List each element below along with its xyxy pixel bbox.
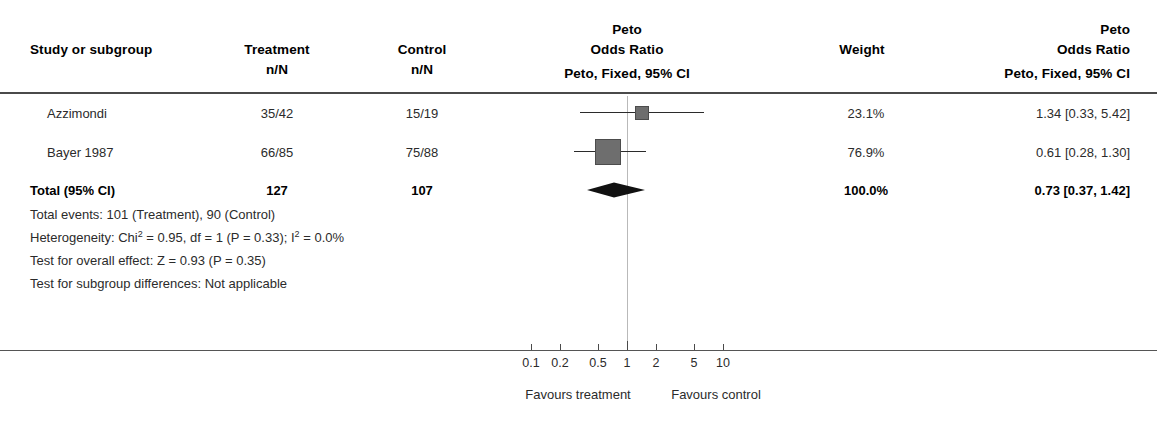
plot-header-line2: Odds Ratio — [590, 42, 663, 57]
total-row-label: Total (95% CI) — [30, 183, 115, 198]
heterogeneity-middle: = 0.95, df = 1 (P = 0.33); I — [143, 230, 295, 245]
favours-control-label: Favours control — [671, 387, 761, 402]
total-row-effect: 0.73 [0.37, 1.42] — [1035, 183, 1130, 198]
subgroup-differences-text: Test for subgroup differences: Not appli… — [30, 276, 287, 291]
favours-treatment-label: Favours treatment — [525, 387, 631, 402]
row-study-name: Azzimondi — [47, 106, 107, 121]
row-weight-value: 76.9% — [848, 145, 885, 160]
axis-tick-label: 0.5 — [589, 356, 606, 370]
effect-header-line3: Peto, Fixed, 95% CI — [1004, 66, 1130, 81]
row-effect-value: 0.61 [0.28, 1.30] — [1036, 145, 1130, 160]
row-study-name: Bayer 1987 — [47, 145, 114, 160]
header-divider — [0, 92, 1157, 94]
axis-tick — [598, 344, 599, 350]
axis-tick-label: 2 — [653, 356, 660, 370]
column-header-control: Control — [398, 42, 447, 57]
axis-tick-label: 0.1 — [522, 356, 539, 370]
heterogeneity-suffix: = 0.0% — [300, 230, 344, 245]
plot-header-line1: Peto — [612, 22, 642, 37]
confidence-interval-line — [574, 151, 646, 152]
overall-effect-text: Test for overall effect: Z = 0.93 (P = 0… — [30, 253, 266, 268]
effect-header-line2: Odds Ratio — [1057, 42, 1130, 57]
row-weight-value: 23.1% — [848, 106, 885, 121]
column-header-treatment: Treatment — [244, 42, 309, 57]
row-control-value: 75/88 — [406, 145, 439, 160]
effect-header-line1: Peto — [1100, 22, 1130, 37]
axis-tick — [723, 344, 724, 350]
effect-marker-box — [595, 139, 621, 165]
axis-tick — [656, 344, 657, 350]
x-axis-line — [0, 350, 1157, 351]
axis-tick-label: 10 — [716, 356, 730, 370]
column-header-weight: Weight — [839, 42, 884, 57]
axis-tick — [694, 344, 695, 350]
column-header-treatment-sub: n/N — [266, 62, 288, 77]
axis-tick-label: 1 — [624, 356, 631, 370]
row-treatment-value: 35/42 — [261, 106, 294, 121]
row-control-value: 15/19 — [406, 106, 439, 121]
total-row-treatment: 127 — [266, 183, 288, 198]
axis-tick — [531, 344, 532, 350]
axis-tick-label: 0.2 — [551, 356, 568, 370]
axis-tick — [627, 341, 628, 350]
heterogeneity-prefix: Heterogeneity: Chi — [30, 230, 138, 245]
total-events-text: Total events: 101 (Treatment), 90 (Contr… — [30, 207, 275, 222]
pooled-effect-diamond — [580, 180, 652, 200]
total-row-control: 107 — [411, 183, 433, 198]
plot-header-line3: Peto, Fixed, 95% CI — [564, 66, 690, 81]
axis-tick-label: 5 — [691, 356, 698, 370]
confidence-interval-line — [580, 112, 704, 113]
heterogeneity-text: Heterogeneity: Chi2 = 0.95, df = 1 (P = … — [30, 230, 344, 245]
axis-tick — [560, 344, 561, 350]
row-treatment-value: 66/85 — [261, 145, 294, 160]
total-row-weight: 100.0% — [844, 183, 888, 198]
null-effect-line — [627, 96, 628, 349]
forest-plot-figure: Study or subgroup Treatment n/N Control … — [0, 0, 1157, 421]
column-header-control-sub: n/N — [411, 62, 433, 77]
column-header-study: Study or subgroup — [30, 42, 152, 57]
row-effect-value: 1.34 [0.33, 5.42] — [1036, 106, 1130, 121]
effect-marker-box — [635, 106, 649, 120]
